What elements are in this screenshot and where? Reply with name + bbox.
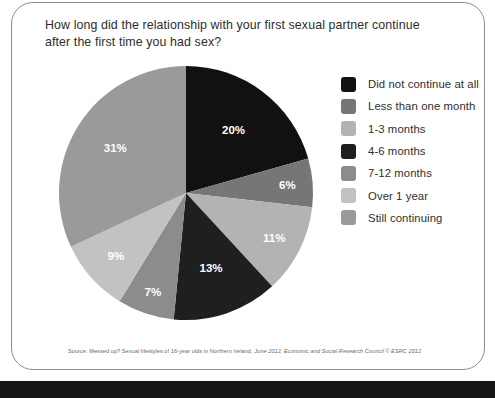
legend-item-label: Over 1 year bbox=[368, 190, 428, 202]
bottom-bar bbox=[0, 381, 495, 398]
legend-swatch-icon bbox=[341, 210, 356, 225]
pie-slice-label: 31% bbox=[104, 142, 127, 154]
pie-slice-label: 9% bbox=[108, 250, 125, 262]
legend-swatch-icon bbox=[341, 77, 356, 92]
source-note: Source: Messed up? Sexual lifestyles of … bbox=[68, 348, 468, 354]
page-title: How long did the relationship with your … bbox=[45, 17, 445, 51]
chart-card: How long did the relationship with your … bbox=[11, 2, 485, 370]
legend-item-label: 1-3 months bbox=[368, 123, 426, 135]
pie-chart-svg: 20%6%11%13%7%9%31% bbox=[50, 65, 322, 321]
legend-item[interactable]: Did not continue at all bbox=[341, 73, 491, 95]
legend-item-label: Still continuing bbox=[368, 212, 442, 224]
pie-slice-group bbox=[59, 66, 313, 320]
legend-item[interactable]: Less than one month bbox=[341, 95, 491, 117]
legend-swatch-icon bbox=[341, 99, 356, 114]
legend: Did not continue at allLess than one mon… bbox=[341, 73, 491, 229]
legend-swatch-icon bbox=[341, 121, 356, 136]
legend-swatch-icon bbox=[341, 166, 356, 181]
legend-item-label: Did not continue at all bbox=[368, 78, 479, 90]
pie-slice-label: 20% bbox=[222, 124, 245, 136]
pie-slice-label: 6% bbox=[279, 179, 296, 191]
pie-chart: 20%6%11%13%7%9%31% bbox=[50, 65, 322, 321]
pie-slice-label: 11% bbox=[263, 232, 285, 244]
legend-item-label: 4-6 months bbox=[368, 145, 426, 157]
legend-item[interactable]: Over 1 year bbox=[341, 184, 491, 206]
legend-item[interactable]: 1-3 months bbox=[341, 118, 491, 140]
legend-swatch-icon bbox=[341, 144, 356, 159]
legend-item[interactable]: 7-12 months bbox=[341, 162, 491, 184]
pie-slice-label: 7% bbox=[145, 286, 162, 298]
legend-swatch-icon bbox=[341, 188, 356, 203]
legend-item-label: 7-12 months bbox=[368, 167, 432, 179]
pie-slice-label: 13% bbox=[200, 262, 223, 274]
legend-item[interactable]: Still continuing bbox=[341, 207, 491, 229]
source-citation: June 2012, Economic and Social Research … bbox=[254, 348, 421, 354]
legend-item[interactable]: 4-6 months bbox=[341, 140, 491, 162]
legend-item-label: Less than one month bbox=[368, 100, 475, 112]
source-prefix: Source: Messed up? Sexual lifestyles of … bbox=[68, 348, 254, 354]
